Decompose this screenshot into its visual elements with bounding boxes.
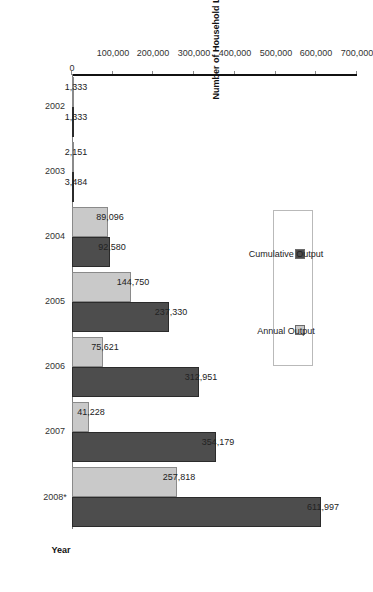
bar-cumul-2002[interactable]: 1,333 xyxy=(72,107,74,137)
category-axis-tick: 2006 xyxy=(30,334,70,399)
bar-value-label: 237,330 xyxy=(154,308,187,317)
legend-item-label: Annual Output xyxy=(257,325,315,335)
legend-item-cumul[interactable]: Cumulative Output xyxy=(281,217,305,292)
category-axis-tick-label: 2006 xyxy=(45,362,65,372)
category-axis-tick: 2003 xyxy=(30,139,70,204)
bar-value-label: 89,096 xyxy=(97,213,125,222)
bar-group: 1,3331,333 xyxy=(72,74,357,139)
value-axis-tick: 300,000 xyxy=(189,37,199,70)
bar-value-label: 257,818 xyxy=(163,473,196,482)
bar-group: 2,1513,484 xyxy=(72,139,357,204)
bar-value-label: 75,621 xyxy=(91,343,119,352)
category-axis-tick: 2002 xyxy=(30,74,70,139)
category-axis-title: Year xyxy=(56,540,66,559)
value-axis-tick-label: 300,000 xyxy=(178,49,211,59)
bar-annual-2006[interactable]: 75,621 xyxy=(72,337,103,367)
value-axis-tick: 0 xyxy=(67,65,77,70)
value-axis-tick: 200,000 xyxy=(148,37,158,70)
value-axis-tick-label: 400,000 xyxy=(219,49,252,59)
bar-annual-2008[interactable]: 257,818 xyxy=(72,467,177,497)
bar-value-label: 312,951 xyxy=(185,373,218,382)
bar-groups: 1,3331,3332,1513,48489,09692,580144,7502… xyxy=(72,74,357,529)
category-axis-tick-label: 2007 xyxy=(45,427,65,437)
bar-annual-2005[interactable]: 144,750 xyxy=(72,272,131,302)
value-axis-tick: 400,000 xyxy=(230,37,240,70)
category-axis-tick-label: 2004 xyxy=(45,232,65,242)
bar-group: 41,228354,179 xyxy=(72,399,357,464)
legend-item-label: Cumulative Output xyxy=(249,249,324,259)
bar-group: 144,750237,330 xyxy=(72,269,357,334)
bar-annual-2004[interactable]: 89,096 xyxy=(72,207,108,237)
value-axis-tick-label: 100,000 xyxy=(96,49,129,59)
bar-group: 75,621312,951 xyxy=(72,334,357,399)
value-axis-tick-label: 600,000 xyxy=(300,49,333,59)
category-axis-tick: 2005 xyxy=(30,269,70,334)
chart-legend: Annual OutputCumulative Output xyxy=(273,210,313,366)
bar-cumul-2003[interactable]: 3,484 xyxy=(72,172,74,202)
bar-cumul-2007[interactable]: 354,179 xyxy=(72,432,216,462)
bar-value-label: 611,997 xyxy=(307,503,339,512)
value-axis-tick-label: 500,000 xyxy=(259,49,292,59)
category-axis-tick: 2008* xyxy=(30,464,70,529)
value-axis-tick: 700,000 xyxy=(352,37,362,70)
plot-area: 1,3331,3332,1513,48489,09692,580144,7502… xyxy=(72,74,357,529)
bar-annual-2002[interactable]: 1,333 xyxy=(72,77,74,107)
value-axis-tick: 500,000 xyxy=(271,37,281,70)
category-axis-title-text: Year xyxy=(51,545,70,555)
category-axis-tick: 2004 xyxy=(30,204,70,269)
bar-annual-2003[interactable]: 2,151 xyxy=(72,142,74,172)
bar-cumul-2008[interactable]: 611,997 xyxy=(72,497,321,527)
value-axis-tick-label: 200,000 xyxy=(137,49,170,59)
category-axis-tick-label: 2008* xyxy=(43,492,67,502)
legend-item-annual[interactable]: Annual Output xyxy=(281,302,305,360)
category-axis-ticks: 2002200320042005200620072008* xyxy=(30,74,70,529)
bar-value-label: 92,580 xyxy=(98,243,126,252)
category-axis-tick-label: 2002 xyxy=(45,102,65,112)
bar-cumul-2004[interactable]: 92,580 xyxy=(72,237,110,267)
value-axis-tick-label: 700,000 xyxy=(341,49,373,59)
bar-value-label: 144,750 xyxy=(117,278,150,287)
category-axis-tick: 2007 xyxy=(30,399,70,464)
category-axis-tick-label: 2005 xyxy=(45,297,65,307)
bar-group: 257,818611,997 xyxy=(72,464,357,529)
bar-value-label: 354,179 xyxy=(202,438,235,447)
bar-cumul-2006[interactable]: 312,951 xyxy=(72,367,199,397)
category-axis-tick-label: 2003 xyxy=(45,167,65,177)
value-axis-tick: 100,000 xyxy=(108,37,118,70)
bar-value-label: 41,228 xyxy=(77,408,105,417)
value-axis-tick: 600,000 xyxy=(311,37,321,70)
bar-cumul-2005[interactable]: 237,330 xyxy=(72,302,169,332)
bar-annual-2007[interactable]: 41,228 xyxy=(72,402,89,432)
